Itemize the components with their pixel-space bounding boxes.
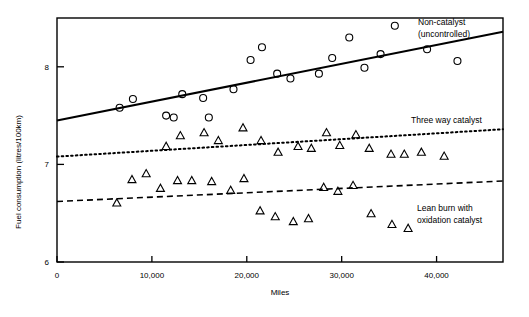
y-tick-label: 6	[45, 258, 50, 267]
x-tick-label: 10,000	[140, 271, 165, 280]
x-tick-label: 30,000	[329, 271, 354, 280]
fuel-consumption-chart: 678 010,00020,00030,00040,000 Fuel consu…	[0, 0, 529, 317]
y-axis-label: Fuel consumption (litres/100km)	[14, 115, 23, 229]
annotation-three-way-catalyst: Three way catalyst	[411, 115, 482, 125]
y-tick-label: 8	[45, 63, 50, 72]
chart-background	[0, 0, 529, 317]
plot-area: 678 010,00020,00030,00040,000 Fuel consu…	[0, 0, 529, 317]
x-axis-label: Miles	[271, 288, 290, 297]
y-tick-label: 7	[45, 160, 50, 169]
annotation-non-catalyst-line2: (uncontrolled)	[418, 29, 470, 39]
annotation-lean-burn-line2: oxidation catalyst	[417, 215, 483, 225]
annotation-non-catalyst-line1: Non-catalyst	[418, 17, 466, 27]
annotation-lean-burn-line1: Lean burn with	[417, 203, 473, 213]
x-tick-label: 0	[55, 271, 60, 280]
x-tick-label: 40,000	[424, 271, 449, 280]
x-tick-label: 20,000	[235, 271, 260, 280]
